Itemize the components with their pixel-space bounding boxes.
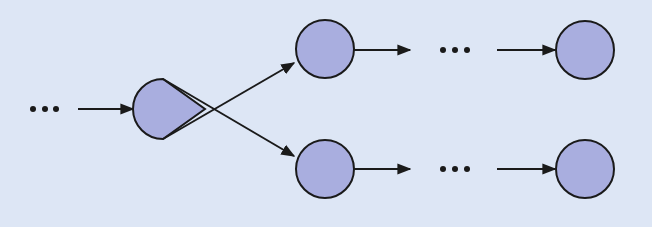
ellipsis-left-icon: [30, 106, 59, 112]
node-bottom-n: [556, 140, 614, 198]
ellipsis-bottom-icon: [440, 166, 470, 172]
node-bottom-1: [296, 140, 354, 198]
node-top-n: [556, 21, 614, 79]
ellipsis-top-icon: [440, 47, 470, 53]
node-top-1: [296, 20, 354, 78]
diagram-canvas: [0, 0, 652, 227]
flow-diagram: [0, 0, 652, 227]
